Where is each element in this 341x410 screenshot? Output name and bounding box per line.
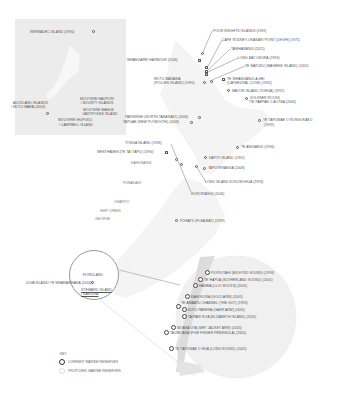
label-kutu-parera: KUTU PARERA (GAER ARM) (2005) — [188, 308, 245, 312]
key-current-label: CURRENT MARINE RESERVES — [68, 360, 118, 364]
marker-hawea — [193, 283, 198, 288]
proposed-reserve-key-icon — [59, 368, 65, 374]
label-piopiotahi: PIOPIOTAHI (MILFORD SOUND) (1993) — [211, 271, 274, 275]
label-taumoana: TAUMOANA (FIVE FINGER PENINSULA) (2005) — [170, 331, 246, 335]
marker-taumoana — [164, 330, 169, 335]
marker-te-awaatu — [176, 304, 181, 309]
marker-te-hapua — [198, 277, 203, 282]
marker-taipari-roa — [182, 314, 187, 319]
current-reserve-key-icon — [59, 359, 65, 365]
label-te-hapua: TE HAPUA (SUTHERLAND SOUND) (2005) — [204, 278, 273, 282]
marker-kutu-parera — [182, 307, 187, 312]
label-kahukura: KAHUKURA (GOLD ARM) (2005) — [191, 295, 243, 299]
key-proposed-label: PROPOSED MARINE RESERVES — [68, 369, 121, 373]
marker-kahukura — [185, 294, 190, 299]
label-taipari-roa: TAIPARI ROA (ELIZABETH ISLAND) (2005) — [188, 315, 256, 319]
marker-piopiotahi — [205, 270, 210, 275]
label-te-tapuwae-o-hua: TE TAPUWAE O HUA (LONG SOUND) (2005) — [175, 347, 247, 351]
label-hawea: HAWEA (CLIO ROCKS) (2005) — [199, 284, 247, 288]
label-te-awaatu: TE AWAATU CHANNEL (THE GUT) (1993) — [181, 301, 248, 305]
marker-moana-uta — [171, 325, 176, 330]
label-moana-uta: MOANA UTA (WET JACKET ARM) (2005) — [177, 326, 242, 330]
key-title: KEY — [60, 352, 67, 356]
marker-te-tapuwae-o-hua — [169, 346, 174, 351]
